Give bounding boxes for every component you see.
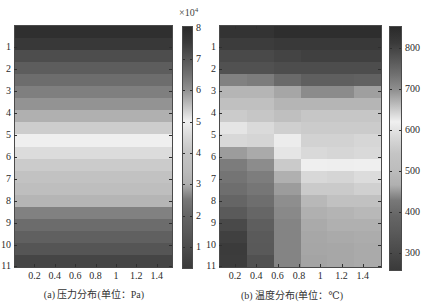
x-tick-mark: [235, 26, 236, 29]
y-tick-label: 6: [0, 151, 11, 163]
colorbar-tick-mark: [183, 59, 185, 60]
heatmap-cell: [15, 171, 172, 183]
y-tick-mark: [378, 113, 381, 114]
heatmap-cell: [301, 38, 327, 50]
x-tick-mark: [363, 264, 364, 267]
heatmap-cell: [301, 86, 327, 98]
colorbar-tick-label: 400: [405, 206, 420, 218]
heatmap-cell: [247, 195, 274, 207]
heatmap-cell: [354, 110, 381, 122]
heatmap-cell: [220, 26, 247, 38]
colorbar-tick-mark: [399, 89, 401, 90]
y-tick-mark: [219, 179, 222, 180]
x-tick-mark: [34, 264, 35, 267]
heatmap-cell: [274, 98, 301, 110]
x-tick-mark: [278, 264, 279, 267]
heatmap-cell: [247, 219, 274, 231]
heatmap-cell: [220, 159, 247, 171]
colorbar-tick-mark: [183, 184, 185, 185]
heatmap-cell: [220, 62, 247, 74]
y-tick-mark: [14, 69, 17, 70]
heatmap-cell: [15, 110, 172, 122]
heatmap-cell: [274, 62, 301, 74]
heatmap-cell: [247, 98, 274, 110]
heatmap-cell: [274, 219, 301, 231]
heatmap-cell: [15, 26, 172, 38]
heatmap-cell: [247, 50, 274, 62]
heatmap-cell: [15, 86, 172, 98]
heatmap-cell: [15, 147, 172, 159]
heatmap-cell: [15, 134, 172, 147]
colorbar-tick-mark: [390, 212, 392, 213]
heatmap-cell: [220, 122, 247, 134]
y-tick-mark: [219, 91, 222, 92]
heatmap-cell: [15, 98, 172, 110]
heatmap-cell: [247, 207, 274, 219]
y-tick-mark: [219, 223, 222, 224]
y-tick-label: 10: [194, 239, 216, 251]
heatmap-cell: [354, 74, 381, 86]
heatmap-cell: [247, 147, 274, 159]
heatmap-cell: [247, 243, 274, 255]
temperature-colorbar: [389, 26, 402, 271]
heatmap-cell: [220, 38, 247, 50]
colorbar-tick-mark: [183, 122, 185, 123]
colorbar-tick-label: 800: [405, 42, 420, 54]
heatmap-cell: [301, 134, 327, 147]
heatmap-cell: [301, 50, 327, 62]
y-tick-label: 5: [194, 129, 216, 141]
heatmap-cell: [220, 171, 247, 183]
colorbar-tick-mark: [183, 28, 185, 29]
y-tick-mark: [14, 135, 17, 136]
heatmap-cell: [247, 38, 274, 50]
heatmap-cell: [247, 231, 274, 243]
heatmap-cell: [327, 195, 354, 207]
y-tick-label: 6: [194, 151, 216, 163]
heatmap-cell: [274, 50, 301, 62]
y-tick-label: 4: [0, 107, 11, 119]
colorbar-tick-label: 300: [405, 247, 420, 259]
y-tick-mark: [378, 223, 381, 224]
heatmap-cell: [327, 26, 354, 38]
heatmap-cell: [327, 255, 354, 267]
heatmap-cell: [274, 183, 301, 195]
heatmap-cell: [354, 62, 381, 74]
colorbar-tick-mark: [190, 184, 192, 185]
heatmap-cell: [15, 219, 172, 231]
temperature-heatmap: [219, 25, 382, 268]
heatmap-cell: [354, 159, 381, 171]
x-tick-mark: [342, 264, 343, 267]
x-tick-mark: [136, 26, 137, 29]
y-tick-mark: [14, 47, 17, 48]
heatmap-cell: [301, 98, 327, 110]
colorbar-tick-mark: [190, 153, 192, 154]
heatmap-cell: [327, 147, 354, 159]
y-tick-mark: [219, 157, 222, 158]
heatmap-cell: [15, 195, 172, 207]
y-tick-label: 9: [194, 217, 216, 229]
heatmap-cell: [354, 183, 381, 195]
colorbar-tick-mark: [399, 48, 401, 49]
multiplier-base: ×10: [179, 7, 195, 18]
heatmap-cell: [220, 219, 247, 231]
y-tick-label: 7: [0, 173, 11, 185]
y-tick-label: 11: [0, 260, 11, 272]
heatmap-cell: [15, 207, 172, 219]
y-tick-mark: [219, 135, 222, 136]
x-tick-mark: [278, 26, 279, 29]
heatmap-cell: [247, 255, 274, 267]
heatmap-cell: [354, 26, 381, 38]
heatmap-cell: [354, 134, 381, 147]
colorbar-tick-mark: [390, 253, 392, 254]
x-tick-mark: [55, 26, 56, 29]
heatmap-cell: [220, 50, 247, 62]
y-tick-label: 3: [194, 85, 216, 97]
x-tick-mark: [96, 264, 97, 267]
y-tick-mark: [14, 157, 17, 158]
heatmap-cell: [354, 207, 381, 219]
heatmap-cell: [274, 243, 301, 255]
heatmap-cell: [354, 243, 381, 255]
colorbar-tick-mark: [390, 171, 392, 172]
heatmap-cell: [354, 147, 381, 159]
y-tick-mark: [378, 135, 381, 136]
